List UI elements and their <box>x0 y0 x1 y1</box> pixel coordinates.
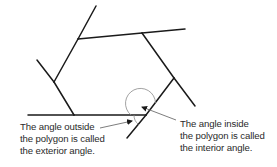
interior-caption-line-1: The angle inside <box>180 118 265 130</box>
interior-angle-caption: The angle inside the polygon is called t… <box>180 118 265 154</box>
exterior-caption-line-1: The angle outside <box>20 121 105 133</box>
extension-left <box>37 60 54 82</box>
exterior-angle-arc <box>134 115 139 125</box>
exterior-caption-line-2: the polygon is called <box>20 133 105 145</box>
exterior-caption-line-3: the exterior angle. <box>20 145 105 157</box>
extension-right <box>174 78 195 106</box>
exterior-angle-caption: The angle outside the polygon is called … <box>20 121 105 157</box>
side-top-left <box>78 33 142 39</box>
interior-caption-line-3: the interior angle. <box>180 142 265 154</box>
side-left <box>54 39 78 82</box>
hexagon-polygon <box>54 33 174 115</box>
interior-caption-line-2: the polygon is called <box>180 130 265 142</box>
side-bottom-left <box>54 82 74 115</box>
interior-angle-arc <box>126 88 156 115</box>
extension-bottom-right <box>127 115 146 138</box>
extension-top <box>78 6 96 39</box>
extension-top-right <box>142 29 185 33</box>
side-top-right <box>142 33 174 78</box>
side-right <box>146 78 174 115</box>
